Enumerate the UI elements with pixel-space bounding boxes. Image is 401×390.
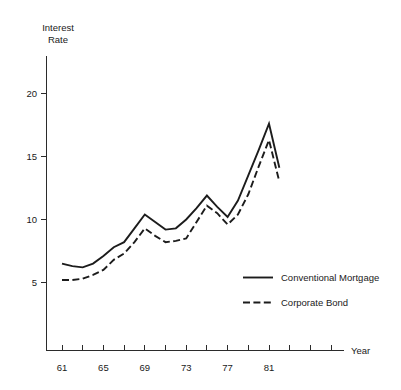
chart-legend: Conventional Mortgage Corporate Bond bbox=[243, 272, 379, 308]
x-tick-label-73: 73 bbox=[181, 362, 192, 373]
x-axis-ticks bbox=[62, 345, 331, 351]
y-axis-ticks: 20 15 10 5 bbox=[26, 88, 46, 288]
x-tick-label-81: 81 bbox=[264, 362, 275, 373]
y-tick-label-15: 15 bbox=[26, 151, 37, 162]
legend-label-conventional-mortgage: Conventional Mortgage bbox=[281, 272, 379, 283]
chart-canvas: Interest Rate 20 15 10 5 bbox=[0, 0, 401, 390]
x-tick-label-61: 61 bbox=[57, 362, 68, 373]
legend-label-corporate-bond: Corporate Bond bbox=[281, 297, 348, 308]
y-tick-label-10: 10 bbox=[26, 214, 37, 225]
y-axis-title-line2: Rate bbox=[48, 34, 68, 45]
y-tick-label-20: 20 bbox=[26, 88, 37, 99]
x-axis-title: Year bbox=[351, 345, 370, 356]
x-tick-label-69: 69 bbox=[140, 362, 151, 373]
x-tick-label-77: 77 bbox=[222, 362, 233, 373]
series-line-corporate-bond bbox=[62, 140, 279, 280]
x-tick-label-65: 65 bbox=[98, 362, 109, 373]
x-axis-tick-labels: 61 65 69 73 77 81 bbox=[57, 362, 275, 373]
y-tick-label-5: 5 bbox=[32, 277, 37, 288]
interest-rate-line-chart: Interest Rate 20 15 10 5 bbox=[0, 0, 401, 390]
y-axis-title-line1: Interest bbox=[42, 22, 74, 33]
